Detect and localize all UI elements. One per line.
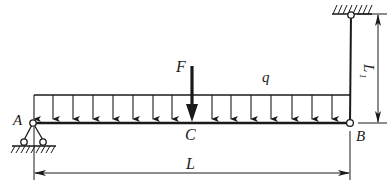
label-l1: L 1 [358,63,377,79]
load-arrows [34,95,332,119]
pin-a-icon [30,120,36,126]
pin-top-icon [348,12,354,18]
label-l: L [185,155,195,172]
label-f: F [175,58,186,75]
label-b: B [356,128,365,144]
beam-diagram: q F C A [0,0,387,193]
label-a: A [12,112,23,128]
svg-text:1: 1 [358,74,368,79]
ground-hatch-icon [11,146,55,153]
pin-b-icon [347,120,354,127]
label-c: C [185,126,196,143]
svg-text:L: L [361,63,377,72]
force-arrow [186,66,198,122]
roller-icon [21,139,27,145]
label-q: q [262,69,270,85]
roller-icon [40,139,46,145]
